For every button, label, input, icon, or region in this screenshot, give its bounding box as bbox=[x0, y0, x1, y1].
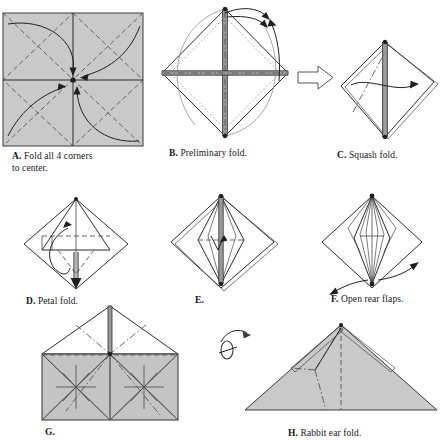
figure-step-c bbox=[296, 38, 442, 143]
figure-step-d bbox=[18, 196, 138, 296]
figure-step-h bbox=[205, 322, 442, 422]
step-label-c: C. bbox=[337, 150, 346, 160]
caption-step-b: B. Preliminary fold. bbox=[169, 148, 247, 160]
caption-text-a-line2: to center. bbox=[12, 163, 48, 173]
mountain-fold-squash bbox=[353, 52, 385, 112]
motion-arrow-top-b2 bbox=[227, 16, 265, 25]
motion-curve-right bbox=[225, 21, 276, 136]
figure-step-f bbox=[310, 192, 440, 297]
caption-step-f: F. Open rear flaps. bbox=[331, 294, 404, 306]
caption-step-a-line2: to center. bbox=[12, 163, 48, 175]
motion-arrow-loop-d bbox=[54, 268, 70, 274]
step-label-b: B. bbox=[169, 148, 178, 158]
motion-arrow-head-b2 bbox=[260, 20, 268, 28]
figure-step-g bbox=[30, 303, 210, 423]
origami-instruction-sheet: A. Fold all 4 corners to center. bbox=[0, 0, 442, 441]
caption-text-f: Open rear flaps. bbox=[341, 294, 404, 304]
apex-point-d bbox=[74, 197, 78, 201]
motion-curve-left bbox=[177, 9, 225, 125]
figure-step-a bbox=[0, 10, 150, 150]
caption-text-c: Squash fold. bbox=[349, 150, 398, 160]
apex-point-f bbox=[370, 194, 375, 199]
apex-point-c bbox=[383, 40, 387, 44]
turn-over-symbol bbox=[219, 330, 251, 359]
step-label-f: F. bbox=[331, 294, 339, 304]
valley-fold-petal-left bbox=[58, 250, 76, 274]
figure-step-b bbox=[155, 5, 295, 140]
motion-arrow-head-f2 bbox=[410, 262, 419, 270]
caption-text-b: Preliminary fold. bbox=[180, 148, 247, 158]
caption-step-h: H. Rabbit ear fold. bbox=[288, 428, 361, 440]
mountain-fold-roof-left bbox=[76, 325, 110, 354]
center-point-g bbox=[108, 352, 112, 356]
motion-arrow-head-c bbox=[410, 81, 419, 89]
diamond-layer-e bbox=[175, 199, 278, 291]
base-point-b bbox=[223, 134, 227, 138]
motion-arrow-head-d1 bbox=[63, 221, 72, 228]
motion-arrow-e1 bbox=[211, 236, 218, 250]
caption-step-g: G. bbox=[45, 427, 55, 439]
caption-step-c: C. Squash fold. bbox=[337, 150, 398, 162]
caption-text-a-line1: Fold all 4 corners bbox=[24, 151, 93, 161]
valley-fold-petal-right bbox=[76, 250, 94, 274]
diamond-layer-c bbox=[345, 45, 438, 139]
step-label-a: A. bbox=[12, 151, 21, 161]
process-block-arrow bbox=[298, 66, 333, 89]
base-point-e bbox=[219, 282, 223, 286]
figure-step-e bbox=[168, 192, 288, 297]
step-label-h: H. bbox=[288, 428, 298, 438]
step-label-g: G. bbox=[45, 427, 55, 437]
vertical-spine-c bbox=[383, 42, 388, 137]
motion-arrow-open-left bbox=[334, 280, 368, 292]
caption-step-a: A. Fold all 4 corners bbox=[12, 151, 92, 163]
motion-arrow-head-b3 bbox=[268, 19, 277, 27]
base-point-c bbox=[383, 135, 387, 139]
apex-point-e bbox=[219, 194, 223, 198]
mountain-fold-roof-right bbox=[110, 325, 146, 354]
center-point bbox=[70, 77, 75, 82]
caption-text-h: Rabbit ear fold. bbox=[300, 428, 361, 438]
apex-point-h bbox=[339, 323, 343, 327]
apex-point-b bbox=[223, 7, 227, 11]
base-point-f bbox=[370, 282, 375, 287]
roof-spine bbox=[108, 306, 112, 354]
motion-arrow-head-d2 bbox=[71, 278, 82, 289]
